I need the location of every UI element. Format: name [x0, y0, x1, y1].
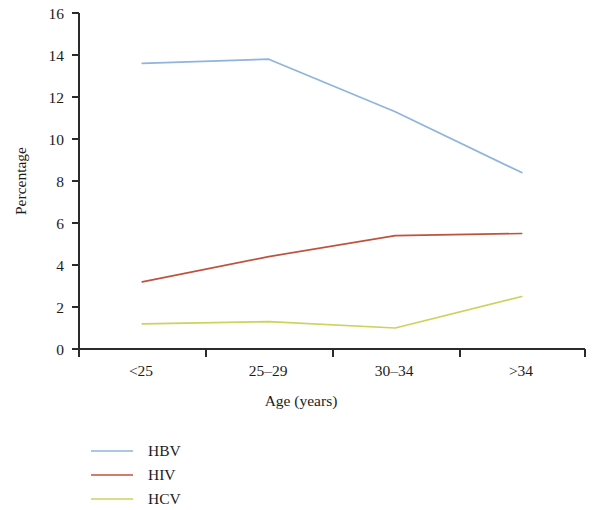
chart-legend: HBV HIV HCV: [91, 442, 182, 507]
series-line-hbv: [142, 59, 522, 172]
y-axis-title: Percentage: [12, 147, 29, 215]
y-tick-label-2: 2: [56, 299, 64, 316]
y-tick-label-16: 16: [49, 5, 65, 22]
y-tick-label-14: 14: [49, 47, 65, 64]
x-axis-title: Age (years): [265, 392, 338, 410]
y-tick-label-12: 12: [49, 89, 65, 106]
x-tick-label-under25: <25: [129, 362, 153, 379]
line-chart: 0 2 4 6 8 10 12 14 16 <25 25–29 30–34 >3…: [0, 0, 593, 510]
x-tick-label-30-34: 30–34: [375, 362, 414, 379]
y-tick-label-8: 8: [56, 173, 64, 190]
y-axis-ticks: [72, 13, 79, 349]
y-tick-label-10: 10: [49, 131, 65, 148]
x-axis-ticks: [79, 349, 585, 357]
x-tick-label-over34: >34: [509, 362, 533, 379]
y-tick-label-4: 4: [56, 257, 64, 274]
y-axis-tick-labels: 0 2 4 6 8 10 12 14 16: [49, 5, 65, 358]
chart-figure: 0 2 4 6 8 10 12 14 16 <25 25–29 30–34 >3…: [0, 0, 593, 510]
y-tick-label-0: 0: [56, 341, 64, 358]
legend-label-hbv: HBV: [148, 442, 182, 459]
y-tick-label-6: 6: [56, 215, 64, 232]
series-line-hiv: [142, 234, 522, 282]
legend-label-hcv: HCV: [148, 490, 182, 507]
x-axis-tick-labels: <25 25–29 30–34 >34: [129, 362, 533, 379]
legend-label-hiv: HIV: [148, 466, 176, 483]
series-line-hcv: [142, 297, 522, 329]
x-tick-label-25-29: 25–29: [249, 362, 288, 379]
